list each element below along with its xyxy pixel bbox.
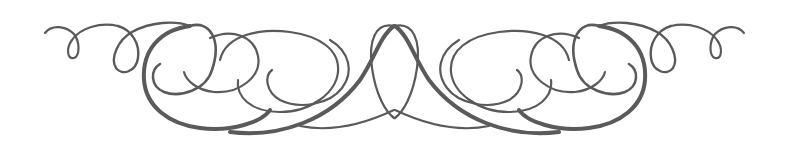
flourish-left-half: [45, 23, 394, 148]
decorative-flourish: [0, 0, 789, 159]
flourish-right-half: [395, 23, 744, 148]
flourish-svg: [0, 0, 789, 159]
